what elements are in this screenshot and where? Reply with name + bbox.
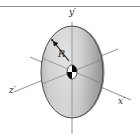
z-axis-label: z′ — [9, 86, 16, 95]
x-axis-label: x′ — [118, 97, 125, 106]
radius-arrow-tip-dot — [51, 39, 53, 41]
radius-label: R — [58, 49, 65, 59]
disk-coordinate-diagram-svg — [0, 0, 140, 137]
figure-container: y′ z′ x′ R — [0, 0, 140, 137]
y-axis-label: y′ — [69, 8, 76, 17]
